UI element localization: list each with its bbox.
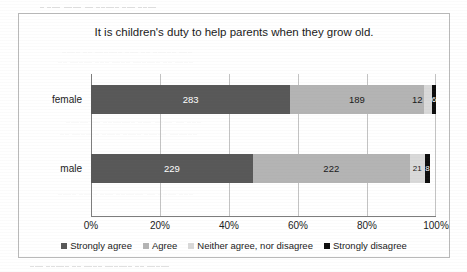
x-axis-tick-labels: 0% 20% 40% 60% 80% 100% (91, 220, 436, 236)
x-tick-40: 40% (219, 220, 239, 231)
bar-value-male-strongly-agree: 229 (164, 164, 180, 174)
category-label-male: male (60, 154, 82, 183)
legend-label-agree: Agree (152, 241, 177, 251)
bar-row-female: female 283 189 12 6 (91, 85, 436, 114)
legend-swatch-icon (324, 243, 330, 249)
scan-bleed-through: ⎯⎯⎯ ⎯⎯⎯⎯⎯ ⎯⎯ ⎯⎯⎯⎯ ⎯⎯⎯⎯⎯⎯ ⎯⎯ ⎯⎯⎯⎯⎯ (30, 262, 170, 272)
bar-value-female-neither: 12 (412, 95, 423, 105)
category-label-female: female (52, 85, 82, 114)
bar-value-male-strongly-disagree: 8 (425, 165, 429, 173)
bar-segment-female-strongly-disagree[interactable]: 6 (432, 85, 436, 114)
legend-swatch-icon (61, 243, 67, 249)
chart-legend: Strongly agree Agree Neither agree, nor … (19, 241, 449, 251)
legend-item-agree[interactable]: Agree (143, 241, 177, 251)
bar-value-male-neither: 21 (413, 165, 422, 173)
bar-segment-male-agree[interactable]: 222 (253, 154, 410, 183)
bar-value-female-agree: 189 (349, 95, 365, 105)
bar-value-female-strongly-disagree: 6 (432, 96, 436, 104)
chart-title: It is children's duty to help parents wh… (19, 26, 449, 38)
bar-segment-female-strongly-agree[interactable]: 283 (91, 85, 290, 114)
legend-label-strongly-agree: Strongly agree (70, 241, 132, 251)
x-tick-100: 100% (423, 220, 449, 231)
bar-segment-male-strongly-agree[interactable]: 229 (91, 154, 253, 183)
bar-segment-male-neither[interactable]: 21 (410, 154, 425, 183)
bar-segment-male-strongly-disagree[interactable]: 8 (425, 154, 431, 183)
bar-value-male-agree: 222 (323, 164, 339, 174)
bar-row-male: male 229 222 21 8 (91, 154, 436, 183)
bar-segment-female-agree[interactable]: 189 (290, 85, 423, 114)
bar-value-female-strongly-agree: 283 (183, 95, 199, 105)
x-axis-line (91, 216, 436, 217)
legend-swatch-icon (143, 243, 149, 249)
x-tick-0: 0% (84, 220, 98, 231)
x-tick-80: 80% (357, 220, 377, 231)
legend-item-neither-agree-nor-disagree[interactable]: Neither agree, nor disagree (188, 241, 313, 251)
legend-item-strongly-disagree[interactable]: Strongly disagree (324, 241, 407, 251)
x-tick-60: 60% (288, 220, 308, 231)
legend-item-strongly-agree[interactable]: Strongly agree (61, 241, 132, 251)
x-tick-20: 20% (150, 220, 170, 231)
legend-label-neither-agree-nor-disagree: Neither agree, nor disagree (197, 241, 313, 251)
bar-segment-female-neither[interactable]: 12 (424, 85, 432, 114)
plot-area: female 283 189 12 6 male 229 222 (91, 74, 436, 217)
scan-bleed-through: ⎯ ⎯⎯⎯ ⎯⎯⎯⎯ ⎯⎯ ⎯⎯⎯⎯⎯ ⎯⎯⎯ ⎯⎯⎯⎯ (40, 3, 157, 13)
legend-swatch-icon (188, 243, 194, 249)
legend-label-strongly-disagree: Strongly disagree (333, 241, 407, 251)
chart-figure-frame: It is children's duty to help parents wh… (18, 13, 450, 258)
